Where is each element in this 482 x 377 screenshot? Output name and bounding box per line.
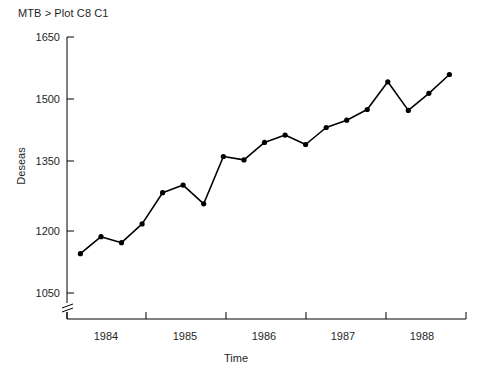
axes-group: [62, 37, 466, 319]
data-point: [140, 221, 145, 226]
plot-canvas: 1650 1500 1350 1200 1050 Deseas 1984 198…: [0, 0, 482, 377]
data-point: [201, 201, 206, 206]
series-markers: [78, 72, 452, 256]
y-axis-break-symbol: [62, 303, 73, 312]
series-line: [80, 75, 449, 254]
data-point: [119, 240, 124, 245]
minitab-plot-screenshot: MTB > Plot C8 C1 1650 1500 1350 1200 105…: [0, 0, 482, 377]
data-point: [385, 79, 390, 84]
data-point: [98, 234, 103, 239]
data-point: [262, 140, 267, 145]
data-point: [303, 142, 308, 147]
chart-svg: [0, 0, 482, 377]
data-point: [221, 154, 226, 159]
data-point: [406, 108, 411, 113]
data-point: [344, 118, 349, 123]
data-point: [241, 157, 246, 162]
data-point: [324, 125, 329, 130]
data-point: [283, 133, 288, 138]
data-point: [160, 190, 165, 195]
data-point: [181, 183, 186, 188]
data-point: [426, 91, 431, 96]
data-point: [78, 251, 83, 256]
data-point: [365, 107, 370, 112]
data-point: [447, 72, 452, 77]
